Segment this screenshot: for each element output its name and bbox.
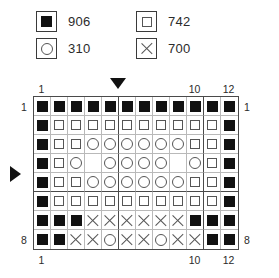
circle-icon (104, 157, 116, 169)
filled-square-icon (224, 215, 235, 226)
circle-icon (104, 234, 116, 246)
grid-cell-filled-square (204, 230, 221, 249)
grid-cell-open-square (204, 135, 221, 154)
row-label: 8 (244, 234, 250, 246)
filled-square-icon (173, 101, 184, 112)
grid-cell-filled-square (221, 97, 238, 116)
filled-square-icon (224, 120, 235, 131)
circle-icon (104, 138, 116, 150)
filled-square-icon (54, 215, 65, 226)
legend-code-label: 742 (168, 14, 191, 29)
filled-square-icon (88, 101, 99, 112)
open-square-icon (207, 158, 217, 168)
grid-cell-filled-square (221, 116, 238, 135)
filled-square-icon (190, 101, 201, 112)
grid-cell-cross (170, 211, 187, 230)
legend-code-label: 700 (168, 41, 191, 56)
grid-cell-cross (136, 230, 153, 249)
grid-cell-cross (85, 230, 102, 249)
column-label: 10 (189, 83, 201, 95)
open-square-icon (105, 196, 115, 206)
open-square-icon (190, 139, 200, 149)
grid-cell-filled-square (34, 135, 51, 154)
open-square-icon (88, 196, 98, 206)
grid-cell-filled-square (187, 211, 204, 230)
legend-row: 906742 (36, 8, 246, 35)
grid-cell-filled-square (34, 116, 51, 135)
grid-cell-filled-square (221, 211, 238, 230)
grid-cell-open-square (136, 116, 153, 135)
grid-cell-open-square (153, 192, 170, 211)
grid-cell-filled-square (34, 192, 51, 211)
filled-square-icon (105, 101, 116, 112)
pattern-chart: 11012 11012 1818 (0, 74, 279, 278)
filled-square-icon (207, 215, 218, 226)
top-column-marker-icon (110, 78, 126, 89)
circle-icon (189, 157, 201, 169)
circle-icon (70, 157, 82, 169)
grid-cell-filled-square (187, 97, 204, 116)
grid-cell-circle (136, 135, 153, 154)
column-label: 1 (39, 83, 45, 95)
grid-cell-filled-square (119, 97, 136, 116)
filled-square-icon (37, 101, 48, 112)
legend: 906742310700 (36, 8, 246, 62)
circle-icon (138, 176, 150, 188)
row-label: 8 (21, 234, 27, 246)
cross-icon (155, 214, 168, 227)
grid-cell-open-square (68, 173, 85, 192)
row-label: 1 (244, 101, 250, 113)
grid-cell-cross (68, 230, 85, 249)
filled-square-icon (41, 16, 52, 27)
grid-cell-filled-square (51, 211, 68, 230)
grid-cell-open-square (102, 192, 119, 211)
filled-square-icon (224, 196, 235, 207)
legend-swatch-circle (36, 38, 57, 59)
grid-cell-open-square (51, 192, 68, 211)
grid-cell-filled-square (34, 154, 51, 173)
grid-cell-circle (119, 173, 136, 192)
cross-icon (138, 214, 151, 227)
grid-cell-open-square (187, 116, 204, 135)
grid-cell-circle (119, 154, 136, 173)
open-square-icon (142, 17, 152, 27)
filled-square-icon (37, 177, 48, 188)
column-label: 12 (223, 254, 235, 266)
cross-icon (104, 214, 117, 227)
grid-cell-cross (119, 211, 136, 230)
circle-icon (87, 176, 99, 188)
filled-square-icon (37, 234, 48, 245)
open-square-icon (156, 120, 166, 130)
circle-icon (172, 138, 184, 150)
grid-cell-open-square (68, 135, 85, 154)
circle-icon (172, 176, 184, 188)
open-square-icon (54, 196, 64, 206)
grid-row (34, 192, 238, 211)
grid-cell-blank (85, 154, 102, 173)
cross-icon (87, 214, 100, 227)
grid-cell-filled-square (221, 154, 238, 173)
filled-square-icon (54, 234, 65, 245)
cross-icon (70, 233, 83, 246)
legend-entry-open-square: 742 (136, 11, 236, 32)
open-square-icon (190, 120, 200, 130)
open-square-icon (105, 120, 115, 130)
grid-cell-filled-square (136, 97, 153, 116)
grid-cell-open-square (119, 192, 136, 211)
grid-cell-filled-square (85, 97, 102, 116)
open-square-icon (71, 177, 81, 187)
circle-icon (87, 138, 99, 150)
grid-cell-cross (102, 211, 119, 230)
grid-cell-circle (187, 154, 204, 173)
grid-cell-filled-square (34, 230, 51, 249)
grid-cell-open-square (85, 192, 102, 211)
circle-icon (104, 176, 116, 188)
open-square-icon (207, 120, 217, 130)
grid-cell-circle (85, 135, 102, 154)
grid-cell-open-square (204, 116, 221, 135)
open-square-icon (71, 139, 81, 149)
grid-cell-filled-square (153, 97, 170, 116)
cross-icon (121, 214, 134, 227)
cross-icon (172, 214, 185, 227)
grid-cell-cross (187, 230, 204, 249)
